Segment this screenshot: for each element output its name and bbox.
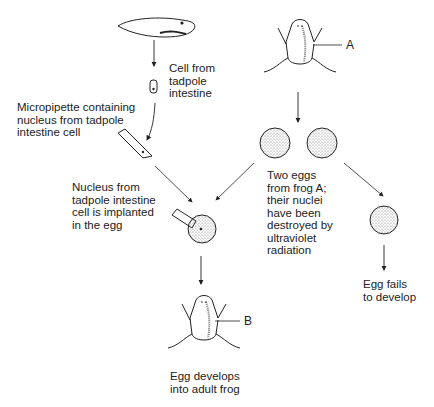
egg-icon [307,128,337,158]
label-frog-b: B [244,315,252,328]
label-nucleus-implanted: Nucleus from tadpole intestine cell is i… [72,181,156,231]
label-egg-develops: Egg develops into adult frog [170,370,240,395]
arrow [155,166,192,202]
failed-egg-icon [370,206,398,234]
label-frog-a: A [346,39,354,52]
frog-b-icon [168,296,240,349]
implanted-egg-icon [172,209,216,243]
egg-icon [260,128,290,158]
label-micropipette: Micropipette containing nucleus from tad… [17,101,135,139]
tadpole-icon [118,18,195,37]
label-egg-fails: Egg fails to develop [363,278,416,303]
arrow [344,163,383,196]
intestine-cell-icon [150,80,157,93]
frog-a-icon [264,20,336,73]
label-cell-from-tadpole: Cell from tadpole intestine [169,62,215,100]
arrow [147,103,155,140]
diagram-canvas [0,0,434,407]
arrow [216,163,254,200]
label-two-eggs: Two eggs from frog A; their nuclei have … [267,169,333,257]
